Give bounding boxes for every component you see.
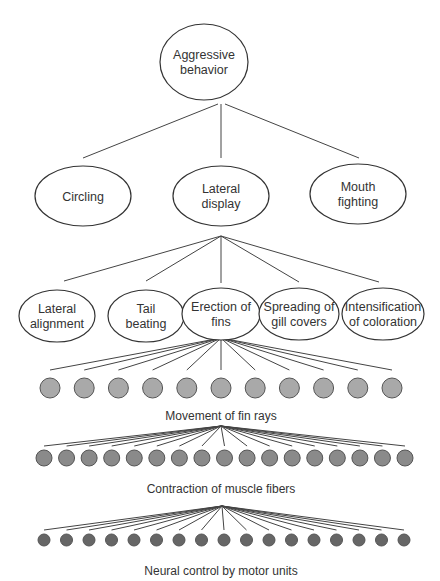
fin-rays-fan-line <box>221 338 392 370</box>
node-aggressive-behavior: Aggressivebehavior <box>160 24 248 100</box>
fin-rays-fan-line <box>153 338 221 370</box>
fin-rays-fan-line <box>221 338 255 370</box>
edge-lateral-display-spreading-of-gill-covers <box>221 236 299 282</box>
muscle-fibers-unit-circle <box>149 450 165 466</box>
motor-units-fan-line <box>67 506 223 530</box>
node-ellipse <box>19 290 95 342</box>
motor-units-unit-circle <box>151 534 163 546</box>
diagram-nodes: AggressivebehaviorCirclingLateraldisplay… <box>19 24 424 342</box>
motor-units-unit-circle <box>61 534 73 546</box>
fin-rays-caption: Movement of fin rays <box>165 409 276 423</box>
fin-rays-fan-line <box>187 338 221 370</box>
node-spreading-of-gill-covers: Spreading ofgill covers <box>259 288 339 340</box>
motor-units-unit-circle <box>241 534 253 546</box>
node-erection-of-fins: Erection offins <box>182 288 260 340</box>
node-circling: Circling <box>35 166 131 226</box>
motor-units-unit-circle <box>128 534 140 546</box>
muscle-fibers-unit-circle <box>171 450 187 466</box>
edge-lateral-display-tail-beating <box>146 236 221 281</box>
fin-rays-unit-circle <box>382 378 402 398</box>
node-label: behavior <box>180 63 228 77</box>
node-label: Mouth <box>341 180 376 194</box>
motor-units-unit-circle <box>353 534 365 546</box>
node-label: Lateral <box>202 182 240 196</box>
motor-units-unit-circle <box>286 534 298 546</box>
node-label: Aggressive <box>173 48 235 62</box>
node-label: of coloration <box>349 315 417 329</box>
node-intensification-of-coloration: Intensificationof coloration <box>342 288 424 340</box>
motor-units-unit-circle <box>106 534 118 546</box>
fin-rays-unit-circle <box>245 378 265 398</box>
node-label: beating <box>125 317 166 331</box>
fin-rays-unit-circle <box>314 378 334 398</box>
muscle-fibers-unit-circle <box>104 450 120 466</box>
node-lateral-display: Lateraldisplay <box>173 166 269 226</box>
motor-units-unit-circle <box>263 534 275 546</box>
node-ellipse <box>108 290 184 342</box>
muscle-fibers-unit-circle <box>36 450 52 466</box>
motor-units-unit-circle <box>38 534 50 546</box>
node-ellipse <box>173 166 269 226</box>
node-label: Circling <box>62 190 104 204</box>
motor-units-caption: Neural control by motor units <box>144 564 297 578</box>
fin-rays-unit-circle <box>108 378 128 398</box>
motor-units-fan-line <box>44 506 222 530</box>
motor-units-fan-line <box>222 506 224 530</box>
muscle-fibers-unit-circle <box>374 450 390 466</box>
node-label: Tail <box>137 302 156 316</box>
fin-rays-fan-line <box>221 338 289 370</box>
motor-units-unit-circle <box>331 534 343 546</box>
fin-rays-unit-circle <box>74 378 94 398</box>
aggressive-behavior-hierarchy-diagram: AggressivebehaviorCirclingLateraldisplay… <box>0 0 440 581</box>
motor-units-unit-circle <box>196 534 208 546</box>
muscle-fibers-unit-circle <box>217 450 233 466</box>
fin-rays-unit-circle <box>348 378 368 398</box>
node-lateral-alignment: Lateralalignment <box>19 290 95 342</box>
edge-root-circling <box>83 104 218 158</box>
fin-rays-fan-line <box>84 338 221 370</box>
fin-rays-unit-circle <box>279 378 299 398</box>
node-label: alignment <box>30 317 85 331</box>
motor-units-fan-line <box>222 506 337 530</box>
edge-root-mouth-fighting <box>225 104 359 158</box>
node-tail-beating: Tailbeating <box>108 290 184 342</box>
muscle-fibers-row <box>36 450 413 466</box>
motor-units-unit-circle <box>218 534 230 546</box>
node-mouth-fighting: Mouthfighting <box>310 164 406 224</box>
fin-rays-unit-circle <box>211 378 231 398</box>
node-ellipse <box>182 288 260 340</box>
motor-units-row <box>38 534 410 546</box>
fin-rays-unit-circle <box>177 378 197 398</box>
muscle-fibers-unit-circle <box>397 450 413 466</box>
motor-units-fan-line <box>89 506 222 530</box>
muscle-fibers-unit-circle <box>284 450 300 466</box>
muscle-fibers-unit-circle <box>81 450 97 466</box>
motor-units-unit-circle <box>308 534 320 546</box>
node-label: gill covers <box>271 315 327 329</box>
node-ellipse <box>160 24 248 100</box>
fin-rays-unit-circle <box>40 378 60 398</box>
muscle-fibers-caption: Contraction of muscle fibers <box>147 482 296 496</box>
muscle-fibers-unit-circle <box>126 450 142 466</box>
fin-rays-row <box>40 378 402 398</box>
node-label: fighting <box>338 195 378 209</box>
motor-units-fan-line <box>222 506 404 530</box>
diagram-unit-circles <box>36 378 413 546</box>
motor-units-unit-circle <box>376 534 388 546</box>
muscle-fibers-fan-line <box>67 426 221 446</box>
muscle-fibers-unit-circle <box>239 450 255 466</box>
fin-rays-fan-line <box>50 338 221 370</box>
node-ellipse <box>342 288 424 340</box>
muscle-fibers-unit-circle <box>262 450 278 466</box>
fin-rays-unit-circle <box>143 378 163 398</box>
muscle-fibers-fan-line <box>221 426 225 446</box>
node-label: fins <box>211 315 230 329</box>
muscle-fibers-unit-circle <box>59 450 75 466</box>
edge-lateral-display-intensification-of-coloration <box>221 236 379 282</box>
node-label: Erection of <box>191 300 251 314</box>
muscle-fibers-fan-line <box>221 426 405 446</box>
muscle-fibers-unit-circle <box>329 450 345 466</box>
node-label: Intensification <box>345 300 421 314</box>
node-ellipse <box>259 288 339 340</box>
node-ellipse <box>310 164 406 224</box>
